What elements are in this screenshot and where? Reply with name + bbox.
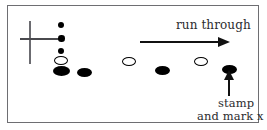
and-mark-x-label: and mark x	[197, 109, 264, 123]
stamp-label: stamp	[218, 96, 254, 110]
ellipse-row-1	[77, 68, 92, 77]
arrow-head-right-icon	[218, 37, 230, 47]
dot-column-3	[58, 48, 64, 54]
ellipse-column-filled	[53, 66, 70, 76]
ellipse-row-2	[122, 57, 136, 66]
notation-figure: run through stamp and mark x	[0, 0, 267, 130]
arrow-shaft	[140, 41, 220, 43]
ellipse-row-4	[194, 57, 208, 66]
ellipse-column-hollow	[54, 56, 68, 65]
run-through-label: run through	[176, 18, 251, 32]
dot-column-1	[58, 22, 64, 28]
arrow-head-up-icon	[224, 70, 234, 80]
ellipse-row-3	[155, 66, 170, 75]
arrow-shaft	[228, 78, 230, 96]
cross-vertical-stroke	[29, 21, 31, 64]
dot-column-2	[58, 35, 65, 42]
